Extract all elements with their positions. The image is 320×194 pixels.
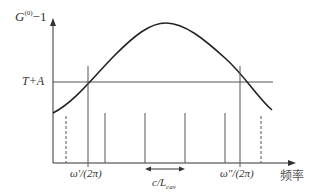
- y-axis-arrow-icon: [50, 18, 56, 26]
- cavity-modes: [66, 113, 261, 163]
- mode-spacing-label: c/Lcav: [152, 176, 176, 191]
- spacing-arrow-icon: [145, 167, 185, 172]
- gain-threshold-diagram: [0, 0, 320, 194]
- y-axis-label: G(0)−1: [15, 9, 46, 25]
- x-axis: [53, 160, 296, 166]
- x-axis-label: 频率: [280, 166, 304, 183]
- y-axis: [50, 18, 56, 163]
- threshold-label: T+A: [22, 74, 44, 89]
- omega-prime-label: ω′/(2π): [70, 167, 102, 179]
- gain-curve: [53, 23, 272, 113]
- omega-double-prime-label: ω″/(2π): [220, 167, 254, 179]
